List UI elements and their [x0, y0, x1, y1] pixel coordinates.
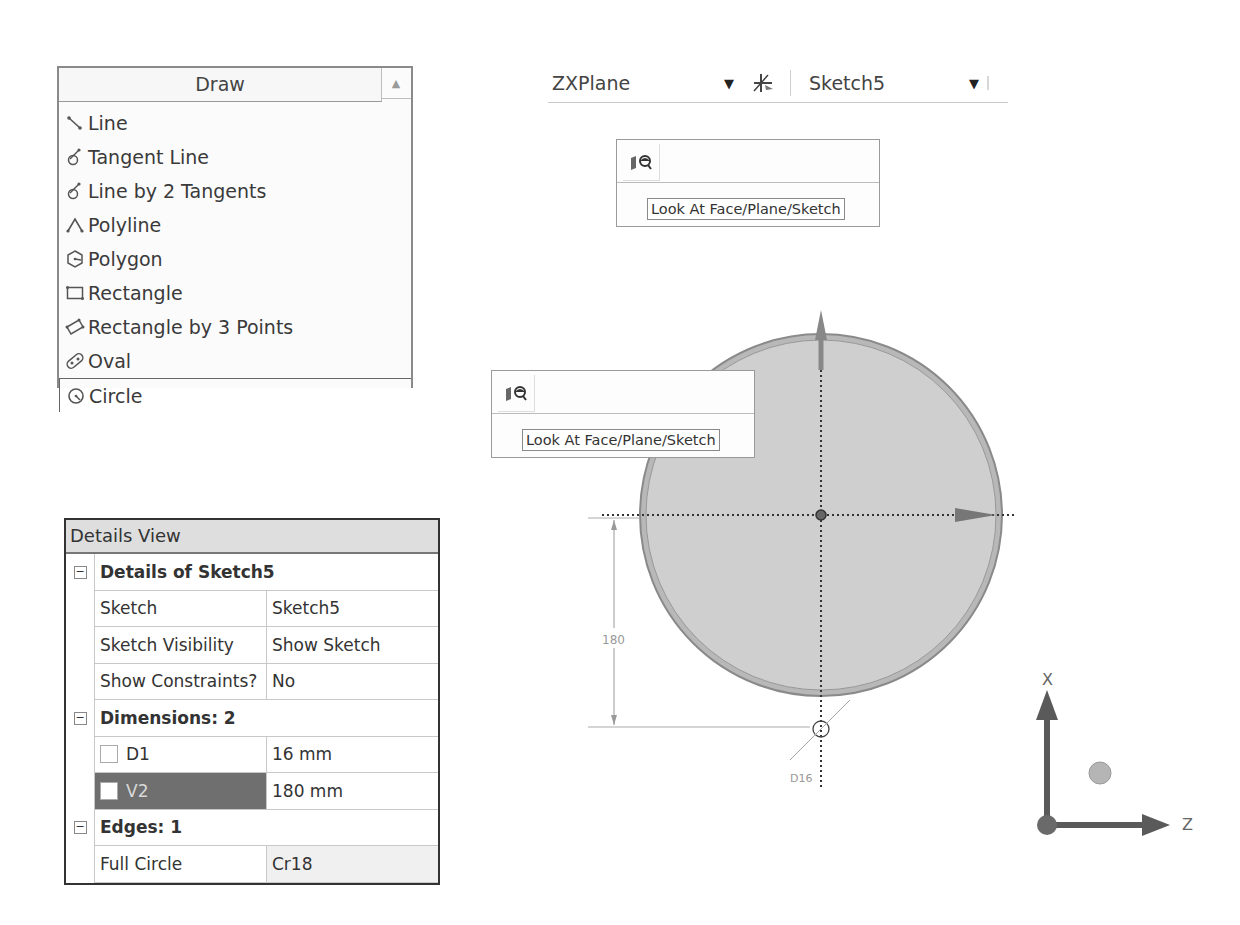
draw-tool-label: Line — [88, 112, 128, 134]
property-name: Show Constraints? — [94, 664, 266, 701]
dimension-label-180[interactable]: 180 — [602, 633, 625, 647]
dimension-label-d16[interactable]: D16 — [790, 772, 812, 785]
property-name: D1 — [94, 737, 266, 774]
rectangle-3-points-icon — [65, 317, 85, 337]
z-axis-arrowhead — [1142, 814, 1170, 836]
scroll-up-icon[interactable]: ▲ — [381, 68, 411, 99]
tangent-line-icon — [65, 147, 85, 167]
draw-tool-label: Circle — [89, 385, 142, 407]
dimension-arrow — [611, 520, 617, 530]
ribbon-divider — [617, 182, 879, 183]
draw-tool-circle[interactable]: Circle — [59, 378, 411, 412]
sketch-select[interactable]: Sketch5 ▼ — [791, 72, 979, 94]
property-name: Full Circle — [94, 846, 266, 883]
details-view: Details View − Details of Sketch5 Sketch… — [64, 518, 440, 885]
draw-tool-tangent-line[interactable]: Tangent Line — [59, 140, 411, 174]
draw-tool-polyline[interactable]: Polyline — [59, 208, 411, 242]
group-label: Edges: 1 — [94, 810, 438, 847]
circle-icon — [66, 386, 86, 406]
chevron-down-icon[interactable]: ▼ — [969, 76, 979, 91]
group-row[interactable]: − Edges: 1 — [66, 810, 438, 847]
draw-tool-label: Rectangle — [88, 282, 183, 304]
toolbar-overflow-edge — [987, 76, 989, 90]
draw-tool-line[interactable]: Line — [59, 106, 411, 140]
property-row[interactable]: Sketch Visibility Show Sketch — [66, 627, 438, 664]
draw-tool-label: Polyline — [88, 214, 161, 236]
oval-icon — [65, 351, 85, 371]
collapse-icon[interactable]: − — [74, 566, 87, 579]
look-at-button[interactable] — [498, 375, 535, 412]
draw-toolbox-header[interactable]: Draw — [59, 68, 382, 102]
draw-tool-label: Polygon — [88, 248, 163, 270]
property-value[interactable]: Sketch5 — [266, 591, 438, 628]
x-axis-arrowhead — [1036, 690, 1058, 720]
dimension-name: D1 — [126, 744, 150, 764]
z-axis-label: Z — [1182, 815, 1193, 834]
parameter-checkbox[interactable] — [100, 782, 118, 800]
group-row[interactable]: − Details of Sketch5 — [66, 554, 438, 591]
collapse-icon[interactable]: − — [74, 821, 87, 834]
look-at-toolbar: Look At Face/Plane/Sketch — [491, 370, 755, 458]
look-at-toolbar: Look At Face/Plane/Sketch — [616, 139, 880, 227]
triad-y-ball[interactable] — [1089, 762, 1111, 784]
graphics-viewport[interactable]: 180 D16 — [560, 280, 1040, 800]
draw-tool-list: Line Tangent Line Line by 2 Tangents Pol… — [59, 106, 411, 412]
details-view-title: Details View — [66, 520, 438, 554]
look-at-tooltip: Look At Face/Plane/Sketch — [647, 198, 845, 220]
line-by-2-tangents-icon — [65, 181, 85, 201]
look-at-button[interactable] — [623, 144, 660, 181]
draw-tool-polygon[interactable]: Polygon — [59, 242, 411, 276]
new-sketch-icon[interactable] — [748, 70, 778, 96]
look-at-icon — [504, 384, 528, 402]
draw-toolbox: Draw ▲ Line Tangent Line Line by 2 Tange… — [57, 66, 413, 388]
collapse-icon[interactable]: − — [74, 712, 87, 725]
origin-point[interactable] — [816, 510, 826, 520]
group-row[interactable]: − Dimensions: 2 — [66, 700, 438, 737]
chevron-down-icon[interactable]: ▼ — [724, 76, 734, 91]
draw-tool-label: Tangent Line — [88, 146, 209, 168]
sketch-select-value: Sketch5 — [809, 72, 885, 94]
draw-tool-line-by-2-tangents[interactable]: Line by 2 Tangents — [59, 174, 411, 208]
property-name: Sketch Visibility — [94, 627, 266, 664]
property-value: Cr18 — [266, 846, 438, 883]
draw-tool-rectangle-3-points[interactable]: Rectangle by 3 Points — [59, 310, 411, 344]
parameter-checkbox[interactable] — [100, 745, 118, 763]
property-row[interactable]: Full Circle Cr18 — [66, 846, 438, 883]
group-label: Details of Sketch5 — [94, 554, 438, 591]
property-value[interactable]: 180 mm — [266, 773, 438, 810]
plane-select-value: ZXPlane — [552, 72, 630, 94]
polygon-icon — [65, 249, 85, 269]
look-at-tooltip: Look At Face/Plane/Sketch — [522, 429, 720, 451]
property-value[interactable]: 16 mm — [266, 737, 438, 774]
property-row[interactable]: D1 16 mm — [66, 737, 438, 774]
property-value[interactable]: Show Sketch — [266, 627, 438, 664]
rectangle-icon — [65, 283, 85, 303]
draw-tool-oval[interactable]: Oval — [59, 344, 411, 378]
group-label: Dimensions: 2 — [94, 700, 438, 737]
property-name-selected: V2 — [94, 773, 266, 810]
triad-origin-ball — [1037, 815, 1057, 835]
line-icon — [65, 113, 85, 133]
draw-tool-label: Rectangle by 3 Points — [88, 316, 293, 338]
property-row[interactable]: V2 180 mm — [66, 773, 438, 810]
dimension-arrow — [611, 715, 617, 725]
draw-tool-rectangle[interactable]: Rectangle — [59, 276, 411, 310]
property-row[interactable]: Sketch Sketch5 — [66, 591, 438, 628]
plane-select[interactable]: ZXPlane ▼ — [548, 72, 734, 94]
property-name: Sketch — [94, 591, 266, 628]
look-at-icon — [629, 153, 653, 171]
draw-tool-label: Oval — [88, 350, 131, 372]
axis-triad: X Z — [1020, 670, 1220, 850]
draw-tool-label: Line by 2 Tangents — [88, 180, 266, 202]
ribbon-divider — [492, 413, 754, 414]
property-value[interactable]: No — [266, 664, 438, 701]
property-row[interactable]: Show Constraints? No — [66, 664, 438, 701]
x-axis-label: X — [1042, 670, 1053, 689]
dimension-name: V2 — [126, 781, 148, 801]
sketch-toolbar: ZXPlane ▼ Sketch5 ▼ — [548, 64, 1008, 103]
polyline-icon — [65, 215, 85, 235]
